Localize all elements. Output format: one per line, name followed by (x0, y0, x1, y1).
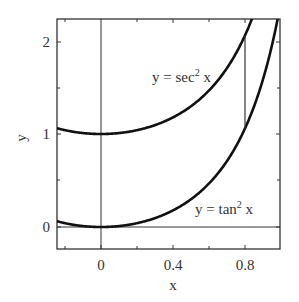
x-tick-label: 0.8 (236, 257, 255, 273)
x-tick-label: 0 (97, 257, 105, 273)
sec-squared-curve (57, 0, 273, 134)
y-axis-label: y (13, 134, 29, 142)
y-tick-label: 0 (43, 219, 51, 235)
chart: 0 0.4 0.8 0 1 2 x y y = sec2 x y = tan2 … (0, 0, 299, 302)
x-tick-label: 0.4 (164, 257, 183, 273)
sec-squared-label: y = sec2 x (152, 67, 211, 85)
x-axis-label: x (169, 277, 177, 293)
y-tick-label: 2 (43, 34, 51, 50)
tan-squared-label: y = tan2 x (195, 199, 254, 217)
y-tick-label: 1 (43, 126, 51, 142)
